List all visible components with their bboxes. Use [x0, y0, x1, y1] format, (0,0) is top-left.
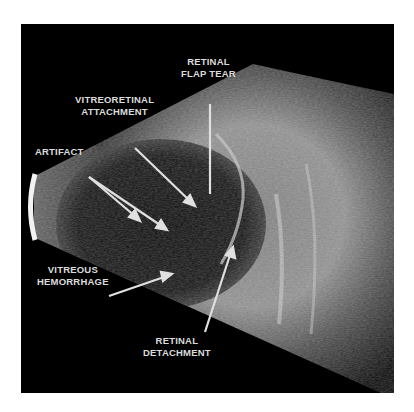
- label-retinal-detachment: RETINAL DETACHMENT: [143, 335, 211, 359]
- label-vitreoretinal-attachment: VITREORETINAL ATTACHMENT: [75, 94, 154, 118]
- label-line: VITREOUS: [37, 264, 109, 276]
- label-line: ATTACHMENT: [75, 106, 154, 118]
- label-line: FLAP TEAR: [181, 68, 236, 80]
- label-retinal-flap-tear: RETINAL FLAP TEAR: [181, 56, 236, 80]
- label-vitreous-hemorrhage: VITREOUS HEMORRHAGE: [37, 264, 109, 288]
- label-artifact: ARTIFACT: [35, 146, 84, 158]
- label-line: ARTIFACT: [35, 146, 84, 158]
- ultrasound-panel: RETINAL FLAP TEAR VITREORETINAL ATTACHME…: [21, 24, 394, 393]
- label-line: RETINAL: [181, 56, 236, 68]
- label-line: HEMORRHAGE: [37, 276, 109, 288]
- label-line: RETINAL: [143, 335, 211, 347]
- label-line: DETACHMENT: [143, 347, 211, 359]
- label-line: VITREORETINAL: [75, 94, 154, 106]
